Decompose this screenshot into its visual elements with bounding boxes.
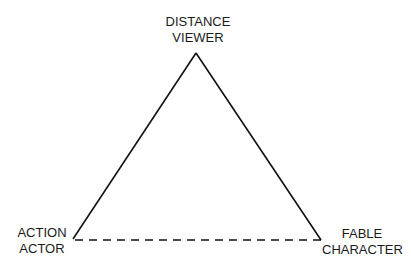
vertex-label-right: FABLE CHARACTER (322, 226, 402, 258)
vertex-label-left: ACTION ACTOR (14, 225, 70, 257)
label-distance: DISTANCE (148, 14, 248, 30)
edge-top-left (73, 53, 196, 239)
label-fable: FABLE (322, 226, 402, 242)
label-actor: ACTOR (14, 241, 70, 257)
vertex-label-top: DISTANCE VIEWER (148, 14, 248, 46)
edge-top-right (196, 53, 321, 240)
label-character: CHARACTER (322, 242, 402, 258)
label-viewer: VIEWER (148, 30, 248, 46)
label-action: ACTION (14, 225, 70, 241)
